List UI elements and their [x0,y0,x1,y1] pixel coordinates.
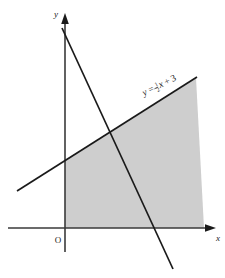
graph-figure: y x O y=12x+3 [0,0,225,278]
shaded-solution-region [65,78,204,228]
y-axis-arrowhead [61,13,69,24]
coordinate-graph-svg: y x O y=12x+3 [0,0,225,278]
x-axis-arrowhead [205,224,216,232]
y-axis-label: y [53,9,58,19]
x-axis-label: x [215,233,220,243]
origin-label: O [55,235,62,245]
